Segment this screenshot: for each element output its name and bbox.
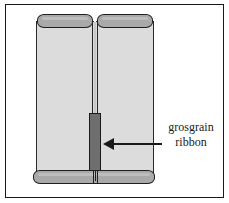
rod-top-left [37, 14, 93, 28]
rod-bottom-notch [92, 170, 99, 184]
callout-label-line-2: ribbon [160, 135, 222, 150]
curtain-panel-right [96, 21, 154, 175]
rod-top-right [97, 14, 153, 28]
curtain-panel-left [36, 21, 94, 175]
callout-arrow-head-icon [103, 138, 114, 150]
callout-arrow-shaft [112, 143, 162, 145]
callout-label: grosgrain ribbon [160, 120, 222, 150]
figure-container: grosgrain ribbon [0, 0, 229, 203]
notch-line-right [97, 170, 98, 184]
callout-label-line-1: grosgrain [160, 120, 222, 135]
notch-line-left [93, 170, 94, 184]
grosgrain-ribbon-strip [89, 113, 101, 173]
notch-line-center [95, 170, 96, 181]
